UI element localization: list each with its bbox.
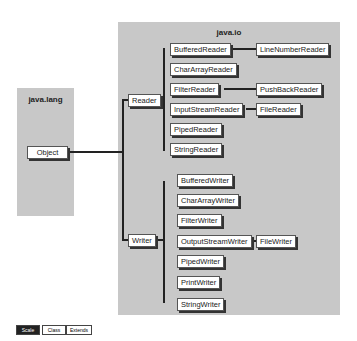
class-filereader[interactable]: FileReader [256, 103, 301, 116]
class-bufferedreader[interactable]: BufferedReader [170, 43, 231, 56]
package-title: java.lang [17, 95, 74, 104]
class-object[interactable]: Object [27, 146, 68, 159]
class-reader[interactable]: Reader [128, 94, 161, 107]
legend-scale: Scale [16, 325, 40, 335]
class-linenumberreader[interactable]: LineNumberReader [256, 43, 329, 56]
class-filterwriter[interactable]: FilterWriter [177, 214, 222, 227]
class-bufferedwriter[interactable]: BufferedWriter [177, 174, 233, 187]
legend-class: Class [42, 325, 66, 335]
class-stringwriter[interactable]: StringWriter [177, 298, 224, 311]
legend-extends: Extends [66, 325, 92, 335]
class-printwriter[interactable]: PrintWriter [177, 276, 220, 289]
class-inputstreamreader[interactable]: InputStreamReader [170, 103, 243, 116]
class-stringreader[interactable]: StringReader [170, 143, 222, 156]
class-filterreader[interactable]: FilterReader [170, 83, 219, 96]
class-chararraywriter[interactable]: CharArrayWriter [177, 194, 239, 207]
package-title: java.io [118, 28, 340, 37]
class-pipedwriter[interactable]: PipedWriter [177, 255, 224, 268]
class-filewriter[interactable]: FileWriter [256, 235, 296, 248]
class-pipedreader[interactable]: PipedReader [170, 123, 222, 136]
class-writer[interactable]: Writer [128, 234, 156, 247]
class-pushbackreader[interactable]: PushBackReader [256, 83, 322, 96]
class-chararrayreader[interactable]: CharArrayReader [170, 63, 237, 76]
class-outputstreamwriter[interactable]: OutputStreamWriter [177, 235, 252, 248]
